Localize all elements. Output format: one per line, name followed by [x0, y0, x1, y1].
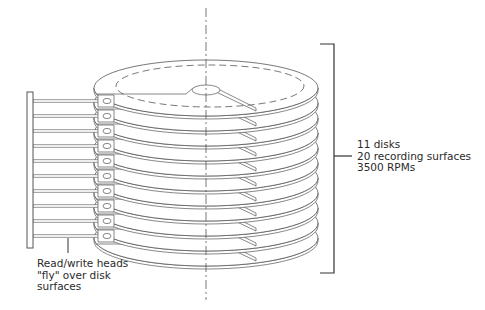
- disk-spec-label: 11 disks 20 recording surfaces 3500 RPMs: [357, 139, 471, 174]
- heads-line-3: surfaces: [37, 281, 128, 293]
- read-write-head: [103, 128, 111, 133]
- rpm-text: 3500 RPMs: [357, 162, 471, 174]
- actuator-arm: [33, 140, 114, 152]
- read-write-head: [103, 158, 111, 163]
- actuator-arm: [33, 170, 114, 182]
- heads-label: Read/write heads "fly" over disk surface…: [37, 258, 128, 293]
- actuator-arm: [33, 155, 114, 167]
- heads-line-1: Read/write heads: [37, 258, 128, 270]
- read-write-head: [103, 173, 111, 178]
- actuator-arm: [33, 215, 114, 227]
- read-write-head: [103, 188, 111, 193]
- disk-count-text: 11 disks: [357, 139, 471, 151]
- actuator-arm: [33, 230, 114, 242]
- read-write-head: [103, 143, 111, 148]
- stack-bracket: [320, 44, 352, 273]
- read-write-head: [103, 98, 111, 103]
- actuator-arm: [33, 95, 114, 107]
- read-write-head: [103, 203, 111, 208]
- read-write-head: [103, 233, 111, 238]
- read-write-head: [103, 218, 111, 223]
- read-write-head: [103, 113, 111, 118]
- actuator-arm: [33, 185, 114, 197]
- actuator-arm: [33, 125, 114, 137]
- actuator-arm: [33, 110, 114, 122]
- actuator-post: [27, 92, 33, 248]
- actuator-arm: [33, 200, 114, 212]
